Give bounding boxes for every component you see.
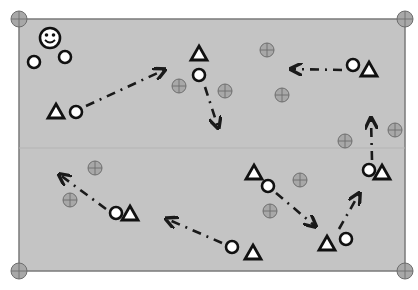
corner-flag-icon — [397, 263, 413, 279]
player-circle-icon — [262, 180, 274, 192]
player-circle-icon — [340, 233, 352, 245]
cone-marker-icon — [260, 43, 274, 57]
cone-marker-icon — [263, 204, 277, 218]
cone-marker-icon — [275, 88, 289, 102]
cone-marker-icon — [293, 173, 307, 187]
corner-flag-icon — [11, 11, 27, 27]
cone-marker-icon — [388, 123, 402, 137]
cone-marker-icon — [338, 134, 352, 148]
corner-flag-icon — [11, 263, 27, 279]
corner-flag-icon — [397, 11, 413, 27]
player-circle-icon — [347, 59, 359, 71]
cone-marker-icon — [88, 161, 102, 175]
player-circle-icon — [59, 51, 71, 63]
player-circle-icon — [110, 207, 122, 219]
smiley-face-icon — [40, 28, 60, 48]
player-circle-icon — [226, 241, 238, 253]
player-circle-icon — [363, 164, 375, 176]
player-circle-icon — [193, 69, 205, 81]
cone-marker-icon — [63, 193, 77, 207]
player-circle-icon — [70, 106, 82, 118]
cone-marker-icon — [172, 79, 186, 93]
drill-diagram — [0, 0, 418, 290]
cone-marker-icon — [218, 84, 232, 98]
player-circle-icon — [28, 56, 40, 68]
